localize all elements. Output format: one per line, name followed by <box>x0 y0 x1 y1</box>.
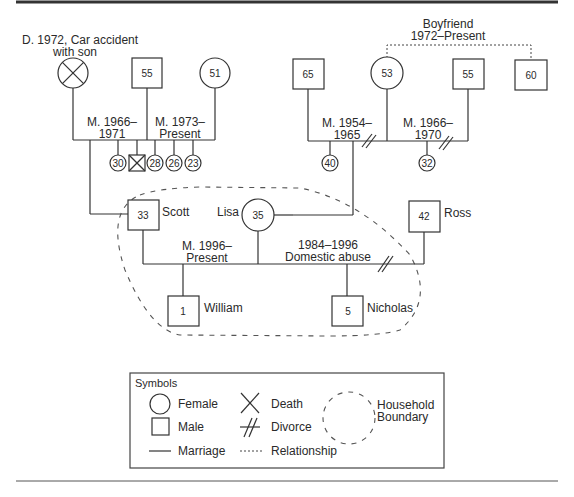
right-family: Boyfriend 1972–Present 65 53 55 60 M. 19… <box>293 17 547 215</box>
deceased-female-icon <box>58 58 88 88</box>
legend-title: Symbols <box>135 377 178 389</box>
nicholas-name: Nicholas <box>367 301 413 315</box>
child-age: 30 <box>112 158 124 169</box>
household-marriage-years: Present <box>186 251 228 265</box>
scott-age: 33 <box>137 210 149 221</box>
legend-boundary: Boundary <box>377 410 428 424</box>
first-marriage-years: 1971 <box>99 127 126 141</box>
household: 33 Scott 35 Lisa 42 Ross M. 1996– Presen… <box>118 187 472 336</box>
death-note-line2: with son <box>52 45 97 59</box>
female-icon <box>150 394 170 414</box>
mother-age: 53 <box>381 68 393 79</box>
genogram-diagram: D. 1972, Car accident with son 55 51 M. … <box>0 0 574 497</box>
legend-relationship: Relationship <box>271 444 337 458</box>
second-marriage-years: Present <box>159 127 201 141</box>
prior-relationship-note: Domestic abuse <box>285 250 371 264</box>
legend-divorce: Divorce <box>271 420 312 434</box>
child-age: 23 <box>187 158 199 169</box>
nicholas-age: 5 <box>345 306 351 317</box>
ross-age: 42 <box>418 211 430 222</box>
william-age: 1 <box>180 306 186 317</box>
first-husband-age: 65 <box>302 69 314 80</box>
male-icon <box>152 418 169 435</box>
second-husband-age: 55 <box>462 69 474 80</box>
child-age: 26 <box>168 158 180 169</box>
relationship-line <box>387 45 531 59</box>
ross-name: Ross <box>444 206 471 220</box>
legend-marriage: Marriage <box>178 444 226 458</box>
lisa-name: Lisa <box>217 205 239 219</box>
second-wife-age: 51 <box>209 68 221 79</box>
legend-death: Death <box>271 397 303 411</box>
legend-female: Female <box>178 397 218 411</box>
first-marriage-years: 1965 <box>334 128 361 142</box>
boyfriend-years: 1972–Present <box>411 29 486 43</box>
second-marriage-years: 1970 <box>415 128 442 142</box>
lisa-age: 35 <box>252 210 264 221</box>
boyfriend-age: 60 <box>525 70 537 81</box>
deceased-male-child-icon <box>129 155 145 171</box>
legend-male: Male <box>178 420 204 434</box>
william-name: William <box>204 301 243 315</box>
legend: Symbols Female Male Marriage Death Divor… <box>130 373 444 468</box>
child-age: 32 <box>421 158 433 169</box>
child-age: 40 <box>324 158 336 169</box>
father-age: 55 <box>141 68 153 79</box>
scott-name: Scott <box>162 205 190 219</box>
child-age: 28 <box>149 158 161 169</box>
